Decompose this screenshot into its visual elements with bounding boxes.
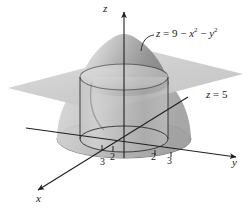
plane-equation-label: z = 5 (206, 88, 228, 100)
y-axis-label: y (232, 156, 237, 168)
figure-canvas: z = 9 − x2 − y2 z = 5 z y x 3 2 2 3 (0, 0, 250, 212)
tick-label-neg-2: 2 (110, 151, 115, 162)
plane-equation-value: = 5 (210, 88, 227, 100)
surface-equation-minus: − (198, 27, 210, 39)
tick-label-pos-2: 2 (151, 151, 156, 162)
tick-label-pos-3: 3 (167, 155, 172, 166)
z-axis-label: z (103, 2, 107, 14)
tick-label-neg-3: 3 (100, 156, 105, 167)
surface-equation-label: z = 9 − x2 − y2 (156, 27, 218, 39)
surface-equation-eq: = 9 − (160, 27, 189, 39)
surface-equation-y-exponent: 2 (214, 26, 217, 33)
x-axis-label: x (36, 192, 41, 204)
